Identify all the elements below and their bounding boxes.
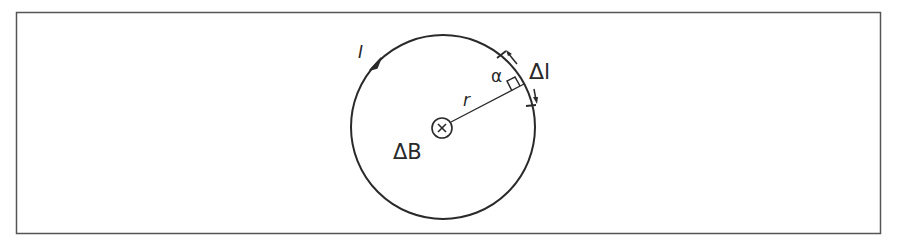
current-label: I <box>358 42 363 62</box>
field-label: ΔB <box>393 140 422 164</box>
radius-line <box>451 84 524 122</box>
radius-label: r <box>463 90 471 110</box>
segment-arrow-lower-icon <box>533 89 538 104</box>
into-page-cross-icon <box>432 118 452 138</box>
current-direction-arrow-icon <box>370 58 381 70</box>
segment-tick-end <box>526 105 536 106</box>
figure-frame <box>17 13 881 234</box>
segment-label: Δl <box>529 59 550 84</box>
angle-label: α <box>491 66 502 86</box>
diagram-figure: I Δl α r ΔB <box>0 0 899 252</box>
